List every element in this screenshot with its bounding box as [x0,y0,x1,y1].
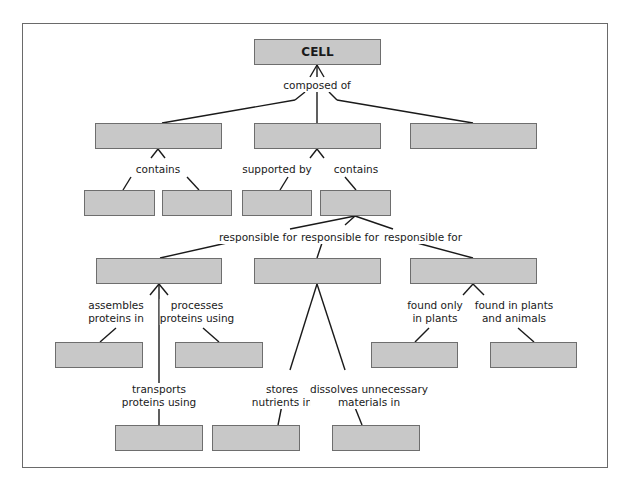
concept-box-blank[interactable] [212,425,300,451]
concept-box-blank[interactable] [175,342,263,368]
concept-box-blank[interactable] [320,190,391,216]
connector-line [317,149,324,158]
connector-line [337,100,473,123]
link-label-dissolves: dissolves unnecessary materials in [310,383,428,409]
connector-line [345,177,356,190]
connector-line [158,149,165,158]
concept-box-blank[interactable] [490,342,577,368]
connector-line [290,216,355,229]
link-label-resp2: responsible for [301,231,379,244]
link-label-resp1: responsible for [219,231,297,244]
concept-box-blank[interactable] [254,258,381,284]
concept-box-blank[interactable] [371,342,458,368]
connector-line [463,284,473,295]
link-label-contains1: contains [136,163,180,176]
concept-box-blank[interactable] [55,342,143,368]
concept-box-blank[interactable] [115,425,203,451]
link-label-processes: processes proteins using [160,299,235,325]
connector-line [151,149,158,158]
connector-line [150,284,159,295]
concept-box-blank[interactable] [410,123,537,149]
connector-line [518,328,534,342]
connector-line [317,65,324,77]
connector-line [295,92,305,100]
link-label-supported: supported by [242,163,312,176]
link-label-resp3: responsible for [384,231,462,244]
concept-box-blank[interactable] [162,190,232,216]
connector-line [310,149,317,158]
link-label-composed: composed of [283,79,351,92]
concept-box-blank[interactable] [95,123,222,149]
connector-line [162,100,295,123]
link-label-assembles: assembles proteins in [88,299,144,325]
connector-line [290,284,317,370]
connector-line [203,328,219,342]
concept-box-blank[interactable] [84,190,155,216]
link-label-foundboth: found in plants and animals [475,299,554,325]
concept-box-blank[interactable] [410,258,537,284]
concept-box-blank[interactable] [332,425,420,451]
concept-box-blank[interactable] [242,190,312,216]
connector-line [355,216,393,229]
connector-line [329,92,337,100]
concept-box-blank[interactable] [254,123,381,149]
connector-line [310,65,317,77]
connector-line [415,328,429,342]
connector-line [100,328,116,342]
root-node-cell: CELL [254,39,381,65]
link-label-contains2: contains [334,163,378,176]
connector-line [280,177,288,190]
connector-line [317,284,345,370]
link-label-transports: transports proteins using [122,383,197,409]
connector-line [123,177,131,190]
connector-line [473,284,484,295]
link-label-foundonly: found only in plants [407,299,463,325]
connector-line [187,177,199,190]
concept-box-blank[interactable] [96,258,222,284]
link-label-stores: stores nutrients in [252,383,312,409]
connector-line [159,284,168,295]
connector-lines [0,0,625,489]
